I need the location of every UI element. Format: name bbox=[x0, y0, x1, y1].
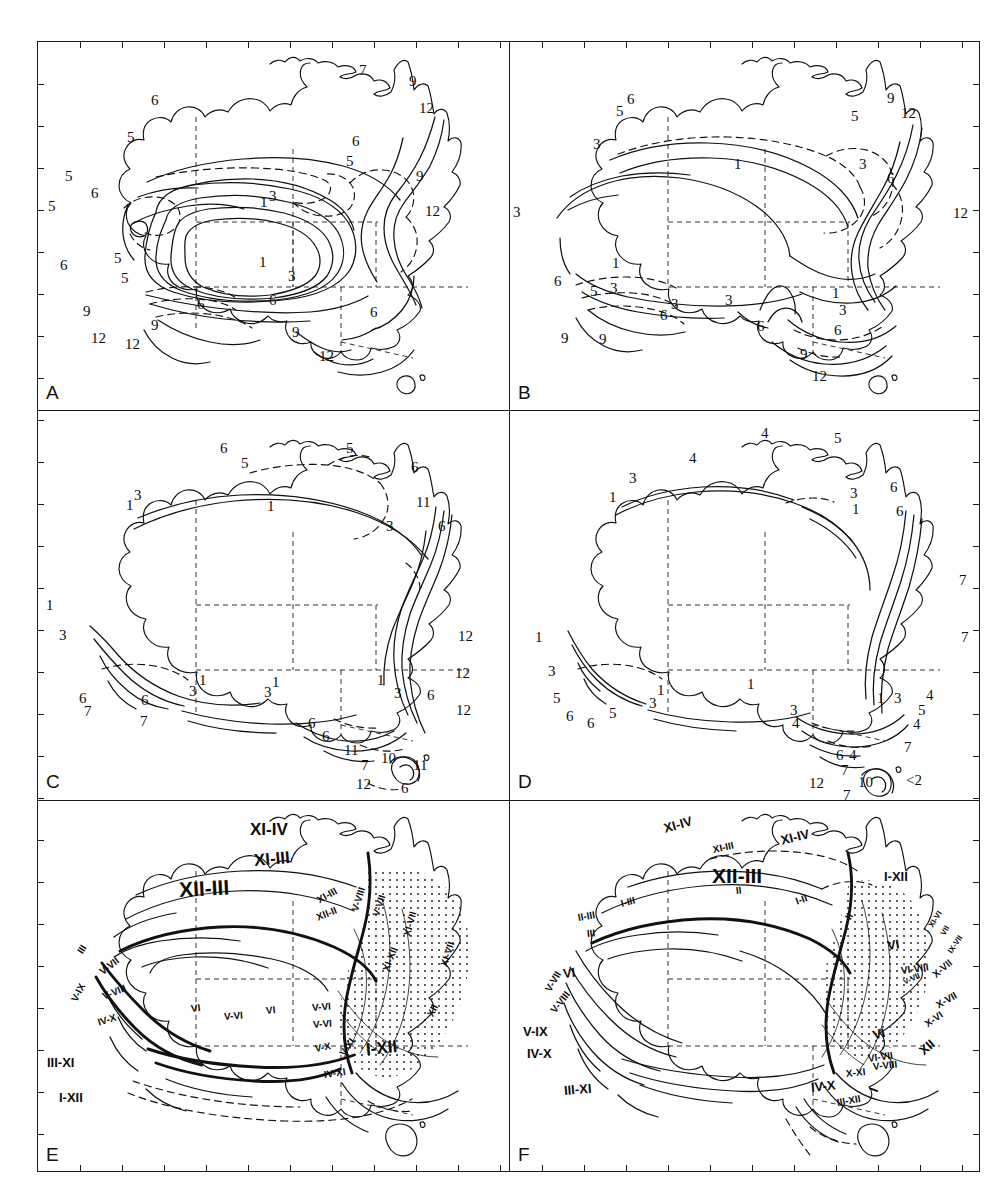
contour-label: 9 bbox=[416, 169, 424, 184]
contour-label: 1 bbox=[267, 499, 275, 514]
contour-label: 4 bbox=[913, 717, 921, 732]
contour-label: 5 bbox=[65, 169, 73, 184]
contour-label: 7 bbox=[843, 788, 851, 800]
contour-label: 7 bbox=[361, 758, 369, 773]
zone-label: X-XI bbox=[845, 1067, 865, 1079]
contour-label: 12 bbox=[125, 337, 140, 352]
contour-label: 6 bbox=[836, 748, 844, 763]
contour-label: 1 bbox=[852, 502, 860, 517]
contour-label: 6 bbox=[890, 480, 898, 495]
contour-label: 6 bbox=[220, 441, 228, 456]
contour-label: 5 bbox=[127, 130, 135, 145]
contour-label: 3 bbox=[189, 684, 197, 699]
contour-label: 3 bbox=[269, 189, 277, 204]
contour-label: 12 bbox=[809, 776, 824, 791]
contour-label: 1 bbox=[126, 498, 134, 513]
contour-label: 3 bbox=[649, 696, 657, 711]
panel-c-letter: C bbox=[46, 771, 60, 793]
contour-label: 12 bbox=[356, 777, 371, 792]
contour-label: 6 bbox=[438, 519, 446, 534]
contour-label: 9 bbox=[599, 332, 607, 347]
contour-label: 3 bbox=[839, 303, 847, 318]
contour-label: 4 bbox=[792, 716, 800, 731]
contour-label: 6 bbox=[91, 186, 99, 201]
contour-label: 6 bbox=[834, 323, 842, 338]
contour-label: 3 bbox=[859, 157, 867, 172]
contour-label: 9 bbox=[887, 91, 895, 106]
zone-label: XI-IV bbox=[250, 821, 288, 838]
contour-label: 9 bbox=[561, 331, 569, 346]
zone-label: VI bbox=[562, 966, 576, 980]
contour-label: 12 bbox=[812, 369, 827, 384]
contour-label: 6 bbox=[401, 781, 409, 796]
panel-e-letter: E bbox=[46, 1144, 59, 1166]
contour-label: 3 bbox=[629, 471, 637, 486]
panel-f-map bbox=[510, 801, 981, 1173]
contour-label: 3 bbox=[264, 685, 272, 700]
contour-label: 5 bbox=[114, 251, 122, 266]
contour-label: 12 bbox=[319, 349, 334, 364]
contour-label: 11 bbox=[413, 758, 427, 773]
contour-label: 6 bbox=[587, 716, 595, 731]
zone-label: I-XII bbox=[884, 870, 908, 883]
contour-label: 5 bbox=[241, 456, 249, 471]
panel-b-map bbox=[510, 42, 981, 410]
contour-label: 5 bbox=[346, 154, 354, 169]
zone-label: I-XII bbox=[365, 1038, 398, 1058]
contour-label: 1 bbox=[609, 490, 617, 505]
contour-label: 12 bbox=[953, 206, 968, 221]
contour-label: 12 bbox=[455, 666, 470, 681]
contour-label: 10 bbox=[381, 751, 396, 766]
zone-label: XII-III bbox=[178, 876, 229, 900]
panel-e: E XI-IVXI-IIIXII-IIIXI-IIIXII-IIV-VIIIV-… bbox=[38, 801, 509, 1173]
contour-label: 3 bbox=[394, 686, 402, 701]
contour-label: 9 bbox=[800, 347, 808, 362]
contour-label: 1 bbox=[259, 255, 267, 270]
contour-label: 3 bbox=[725, 293, 733, 308]
contour-label: 6 bbox=[411, 460, 419, 475]
contour-label: 4 bbox=[849, 748, 857, 763]
contour-label: 3 bbox=[593, 137, 601, 152]
contour-label: 3 bbox=[610, 281, 618, 296]
contour-label: 3 bbox=[894, 691, 902, 706]
contour-label: 3 bbox=[548, 664, 556, 679]
contour-label: 7 bbox=[904, 740, 912, 755]
zone-label: V-VI bbox=[224, 1011, 244, 1022]
contour-label: 6 bbox=[554, 274, 562, 289]
contour-label: 5 bbox=[590, 284, 598, 299]
contour-label: 5 bbox=[851, 109, 859, 124]
contour-label: 6 bbox=[269, 293, 277, 308]
contour-label: 5 bbox=[121, 271, 129, 286]
contour-label: 1 bbox=[377, 673, 385, 688]
zone-label: I-XII bbox=[59, 1091, 83, 1104]
contour-label: 1 bbox=[46, 598, 54, 613]
contour-label: 12 bbox=[456, 703, 471, 718]
contour-label: 6 bbox=[566, 709, 574, 724]
contour-label: 6 bbox=[322, 729, 330, 744]
contour-label: 1 bbox=[734, 157, 742, 172]
zone-label: XII-III bbox=[712, 865, 762, 886]
contour-label: 11 bbox=[416, 495, 430, 510]
contour-label: 6 bbox=[660, 308, 668, 323]
zone-label: III bbox=[586, 928, 595, 939]
zone-label: XI-III bbox=[253, 849, 290, 869]
contour-label: 3 bbox=[513, 205, 521, 220]
contour-label: 7 bbox=[961, 630, 969, 645]
contour-label: 5 bbox=[616, 104, 624, 119]
contour-label: 6 bbox=[151, 93, 159, 108]
contour-label: 5 bbox=[609, 706, 617, 721]
contour-label: 10 bbox=[858, 775, 873, 790]
contour-label: 3 bbox=[134, 488, 142, 503]
panel-a-map bbox=[38, 42, 509, 410]
zone-label: VI bbox=[886, 937, 900, 952]
panel-c: C 65563111136131212131313666771266111071… bbox=[38, 411, 509, 800]
contour-label: 6 bbox=[627, 92, 635, 107]
contour-label: 12 bbox=[425, 204, 440, 219]
contour-label: 6 bbox=[352, 134, 360, 149]
contour-label: 5 bbox=[346, 441, 354, 456]
contour-label: 3 bbox=[671, 297, 679, 312]
contour-label: 5 bbox=[553, 691, 561, 706]
contour-label: 7 bbox=[841, 763, 849, 778]
panel-c-map bbox=[38, 411, 509, 800]
contour-label: 6 bbox=[427, 688, 435, 703]
